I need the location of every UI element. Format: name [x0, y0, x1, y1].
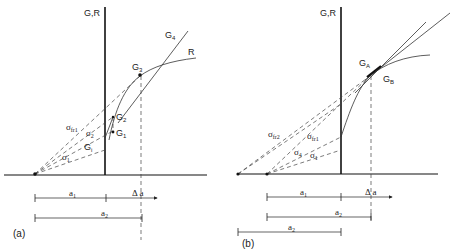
- g4-line: [118, 31, 188, 123]
- origin-point-b2: [265, 172, 268, 175]
- axis-label-b: G,R: [320, 8, 337, 18]
- panel-label-b: (b): [242, 238, 254, 249]
- r-curve-diagram: G,R G4 R G3 G2 G1 Gi σfr1 σ2 σ1: [0, 0, 452, 250]
- label-ga: GA: [359, 58, 370, 69]
- label-sigma-1-b: σ1: [310, 150, 318, 161]
- label-sigma-fr1-b: σfr1: [307, 131, 319, 142]
- label-gb: GB: [383, 74, 394, 85]
- stress-lines-b: [238, 76, 371, 222]
- stress-lines-a: [35, 76, 141, 240]
- label-sigma-2: σ2: [86, 128, 94, 139]
- label-a2-a: a2: [101, 208, 108, 219]
- label-r: R: [188, 47, 195, 57]
- g1-point: [112, 131, 115, 134]
- label-sigma-fr1-a: σfr1: [66, 122, 78, 133]
- label-delta-a-b: Δ a: [365, 187, 377, 197]
- label-gi: Gi: [84, 142, 92, 153]
- label-a2b-b: a2: [288, 222, 295, 233]
- panel-a: G,R G4 R G3 G2 G1 Gi σfr1 σ2 σ1: [4, 7, 207, 240]
- label-g1: G1: [116, 128, 127, 139]
- label-sigma-4: σ4: [294, 147, 302, 158]
- r-curve-b: [341, 55, 430, 137]
- label-sigma-1-a: σ1: [62, 152, 70, 163]
- g2-point: [112, 116, 114, 118]
- panel-label-a: (a): [13, 228, 25, 239]
- label-g3: G3: [132, 62, 143, 73]
- label-sigma-fr2: σfr2: [268, 129, 280, 140]
- axis-label-a: G,R: [84, 8, 101, 18]
- label-g4: G4: [165, 30, 176, 41]
- label-delta-a-a: Δ a: [132, 188, 144, 198]
- g3-point: [138, 73, 142, 77]
- label-a1-b: a1: [300, 187, 307, 198]
- origin-point-b1: [236, 172, 239, 175]
- origin-point-a: [33, 172, 37, 176]
- label-a1-a: a1: [69, 188, 76, 199]
- label-a2-b: a2: [335, 207, 342, 218]
- panel-b: G,R GA GB σfr2 σfr1 σ4 σ1 a1 Δ a: [236, 7, 450, 249]
